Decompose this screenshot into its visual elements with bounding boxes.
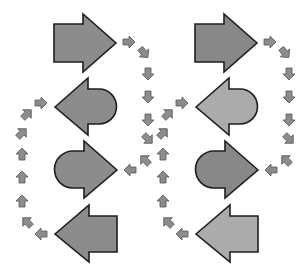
small-arrow-icon <box>123 36 135 48</box>
small-arrow-icon <box>160 214 177 231</box>
arrow-4-block-left-icon <box>196 205 258 262</box>
small-arrow-icon <box>16 171 28 183</box>
small-arrow-icon <box>281 131 298 148</box>
arrow-1-block-right-icon <box>195 14 257 72</box>
small-arrow-icon <box>160 106 177 123</box>
diagram-canvas <box>0 0 302 275</box>
small-arrow-icon <box>142 114 154 126</box>
small-arrow-icon <box>265 164 277 176</box>
small-arrow-icon <box>136 45 153 62</box>
right-cycle <box>155 14 298 262</box>
small-arrow-icon <box>155 125 172 142</box>
small-arrow-icon <box>19 106 36 123</box>
small-arrow-icon <box>16 148 28 160</box>
small-arrow-icon <box>124 164 136 176</box>
arrow-2-rounded-left-icon <box>55 78 117 135</box>
small-arrow-icon <box>137 152 154 169</box>
small-arrow-icon <box>283 68 295 80</box>
small-arrow-icon <box>140 131 157 148</box>
small-arrow-icon <box>278 152 295 169</box>
small-arrow-icon <box>142 68 154 80</box>
small-arrow-icon <box>264 36 276 48</box>
small-arrow-icon <box>157 171 169 183</box>
small-arrow-icon <box>35 97 47 109</box>
small-arrow-icon <box>142 91 154 103</box>
left-cycle <box>14 14 157 262</box>
arrow-2-rounded-left-icon <box>196 78 258 135</box>
arrow-3-rounded-right-icon <box>55 141 118 198</box>
small-arrow-icon <box>283 114 295 126</box>
small-arrow-icon <box>176 228 188 240</box>
small-arrow-icon <box>35 228 47 240</box>
small-arrow-icon <box>19 214 36 231</box>
small-arrow-icon <box>277 45 294 62</box>
small-arrow-icon <box>283 91 295 103</box>
small-arrow-icon <box>16 195 28 207</box>
cycle-diagram <box>0 0 302 275</box>
small-arrow-icon <box>157 195 169 207</box>
small-arrow-icon <box>176 97 188 109</box>
small-arrow-icon <box>14 125 31 142</box>
small-arrow-icon <box>157 148 169 160</box>
arrow-1-block-right-icon <box>54 14 116 72</box>
arrow-3-rounded-right-icon <box>196 141 259 198</box>
arrow-4-block-left-icon <box>55 205 117 262</box>
